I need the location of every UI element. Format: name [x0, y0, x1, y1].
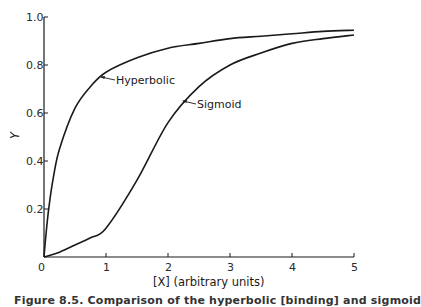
hyperbolic-annotation: Hyperbolic [100, 74, 175, 87]
x-tick-label: 0 [38, 261, 45, 274]
sigmoid-label: Sigmoid [197, 98, 242, 111]
axes [44, 17, 354, 257]
y-tick-label: 0.2 [26, 203, 44, 216]
x-axis-label: [X] (arbitrary units) [153, 275, 265, 289]
y-tick-label: 0.6 [26, 107, 44, 120]
ticks [44, 17, 354, 257]
x-tick-label: 4 [289, 261, 296, 274]
x-tick-label: 3 [227, 261, 234, 274]
y-tick-label: 0.4 [26, 155, 44, 168]
x-tick-label: 1 [103, 261, 110, 274]
sigmoid-annotation: Sigmoid [182, 98, 242, 111]
x-tick-label: 2 [165, 261, 172, 274]
y-axis-label: Y [8, 131, 22, 139]
y-tick-label: 1.0 [26, 11, 44, 24]
tick-labels: 0123450.20.40.60.81.0 [26, 11, 358, 274]
y-tick-label: 0.8 [26, 59, 44, 72]
hyperbolic-curve [44, 30, 354, 257]
sigmoid-curve [44, 35, 354, 257]
hyperbolic-label: Hyperbolic [116, 74, 175, 87]
x-tick-label: 5 [351, 261, 358, 274]
figure-caption: Figure 8.5. Comparison of the hyperbolic… [14, 294, 421, 307]
